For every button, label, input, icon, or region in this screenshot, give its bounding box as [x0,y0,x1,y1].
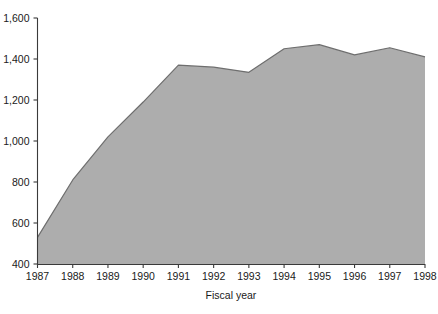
x-axis-title: Fiscal year [206,289,257,301]
y-tick-label: 800 [12,176,30,188]
x-tick-label: 1996 [343,270,367,282]
x-tick-label: 1992 [202,270,226,282]
x-tick-label: 1988 [61,270,85,282]
x-tick-label: 1994 [272,270,296,282]
x-tick-label: 1997 [378,270,402,282]
y-tick-label: 1,200 [3,94,29,106]
y-tick-label: 400 [12,258,30,270]
x-tick-label: 1989 [96,270,120,282]
area-chart: 4006008001,0001,2001,4001,600 1987198819… [0,0,438,314]
y-tick-label: 600 [12,217,30,229]
x-tick-label: 1987 [26,270,50,282]
y-tick-label: 1,600 [3,12,29,24]
y-tick-label: 1,400 [3,53,29,65]
chart-container: 4006008001,0001,2001,4001,600 1987198819… [0,0,438,314]
x-tick-label: 1993 [237,270,261,282]
x-tick-label: 1998 [413,270,437,282]
x-tick-label: 1995 [308,270,332,282]
y-tick-label: 1,000 [3,135,29,147]
x-tick-label: 1991 [167,270,191,282]
x-tick-label: 1990 [132,270,156,282]
